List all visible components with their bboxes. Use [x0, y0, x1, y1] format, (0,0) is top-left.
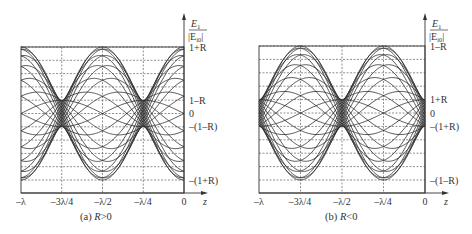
panel-a-ytick-1plusR: 1+R [189, 42, 207, 53]
panel-b-caption: (b) R<0 [325, 211, 357, 223]
panel-a-xtick-neg-lambda4: –λ/4 [133, 196, 152, 207]
panel-b-ytick-1minusR: 1–R [430, 41, 447, 52]
panel-a-xtick-neg-3lambda4: –3λ/4 [50, 196, 74, 207]
panel-b-xtick-0: 0 [423, 196, 428, 207]
panel-b-ytick-1plusR: 1+R [430, 94, 448, 105]
panel-a-xtick-neg-lambda: –λ [15, 196, 26, 207]
panel-b-xtick-neg-lambda2: –λ/2 [332, 196, 351, 207]
panel-b-y-arrow-icon [423, 13, 427, 20]
panel-b: E1 |Ei0| 1–R 1+R 0 –(1+R) –(1–R) –λ –3λ/… [253, 13, 459, 223]
panel-a-ytick-neg-1plusR: –(1+R) [188, 175, 218, 187]
panel-b-xtick-neg-3lambda4: –3λ/4 [288, 196, 312, 207]
panel-a-xlabel: z [202, 196, 207, 207]
panel-b-ytick-neg-1minusR: –(1–R) [429, 175, 458, 187]
panel-a-ytick-1minusR: 1–R [189, 95, 206, 106]
panel-a-ytick-0: 0 [189, 108, 194, 119]
panel-b-x-arrow-icon [442, 191, 449, 195]
figure: E1 |Ei0| 1+R 1–R 0 –(1–R) –(1+R) –λ –3λ/… [0, 0, 472, 234]
panel-a-x-arrow-icon [201, 191, 208, 195]
panel-a: E1 |Ei0| 1+R 1–R 0 –(1–R) –(1+R) –λ –3λ/… [15, 13, 218, 223]
panel-a-xtick-0: 0 [182, 196, 187, 207]
panel-b-xlabel: z [443, 196, 448, 207]
panel-a-y-arrow-icon [182, 13, 186, 20]
panel-a-caption: (a) R>0 [80, 211, 112, 223]
panel-b-xtick-neg-lambda: –λ [253, 196, 264, 207]
panel-b-ytick-0: 0 [430, 108, 435, 119]
panel-a-ylabel-num: E1 [190, 18, 201, 31]
panel-b-ylabel-num: E1 [431, 18, 442, 31]
panel-a-ytick-neg-1minusR: –(1–R) [188, 121, 217, 133]
panel-b-xtick-neg-lambda4: –λ/4 [373, 196, 392, 207]
panel-b-ytick-neg-1plusR: –(1+R) [429, 121, 459, 133]
panel-a-xtick-neg-lambda2: –λ/2 [93, 196, 112, 207]
